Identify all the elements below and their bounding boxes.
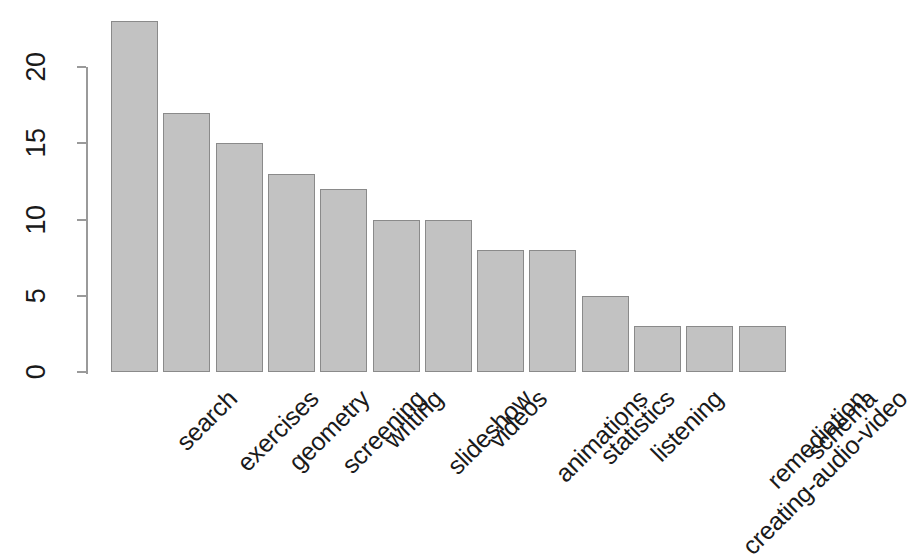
bar-listening (582, 296, 629, 372)
bar-animations (477, 250, 524, 372)
bar-geometry (216, 143, 263, 372)
bar-slideshow (373, 220, 420, 373)
bar-writing (320, 189, 367, 372)
bar-exercises (163, 113, 210, 372)
bar-schema (739, 326, 786, 372)
bar-statistics (529, 250, 576, 372)
bar-videos (425, 220, 472, 373)
x-axis-label-search: search (170, 384, 242, 456)
bar-search (111, 21, 158, 372)
bar-screening (268, 174, 315, 372)
bar-remediation (686, 326, 733, 372)
bar-creating-audio-video (634, 326, 681, 372)
